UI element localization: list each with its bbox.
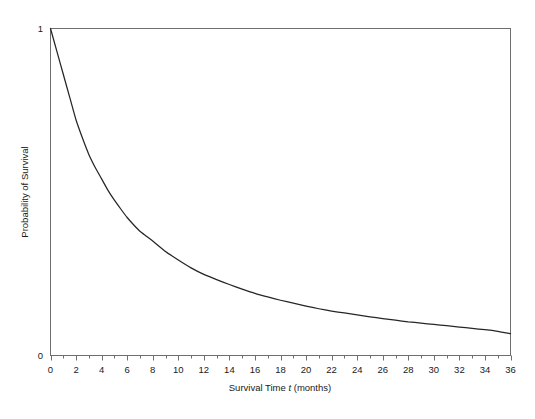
x-tick-label: 22 — [326, 364, 337, 375]
x-tick-label: 24 — [352, 364, 363, 375]
x-tick-label: 2 — [73, 364, 78, 375]
x-tick-label: 8 — [150, 364, 155, 375]
x-axis-title-post: (months) — [291, 382, 331, 393]
y-tick-label-top: 1 — [38, 23, 43, 34]
x-tick-label: 4 — [99, 364, 104, 375]
x-tick-label: 6 — [125, 364, 130, 375]
y-axis-title: Probability of Survival — [19, 146, 30, 237]
x-tick-label: 18 — [275, 364, 286, 375]
chart-background — [0, 0, 535, 419]
x-tick-label: 28 — [403, 364, 414, 375]
x-tick-label: 36 — [505, 364, 516, 375]
x-axis-title: Survival Time t (months) — [229, 382, 331, 393]
x-tick-label: 0 — [48, 364, 53, 375]
survival-curve-figure: 024681012141618202224262830323436 1 0 Pr… — [0, 0, 535, 419]
x-tick-label: 10 — [173, 364, 184, 375]
x-tick-label: 12 — [199, 364, 210, 375]
x-tick-label: 20 — [301, 364, 312, 375]
x-axis-title-pre: Survival Time — [229, 382, 289, 393]
y-tick-label-bottom: 0 — [38, 350, 43, 361]
x-tick-label: 14 — [224, 364, 235, 375]
x-tick-label: 26 — [377, 364, 388, 375]
x-tick-label: 32 — [454, 364, 465, 375]
x-tick-label: 16 — [250, 364, 261, 375]
x-tick-label: 34 — [480, 364, 491, 375]
survival-chart: 024681012141618202224262830323436 1 0 Pr… — [0, 0, 535, 419]
x-tick-label: 30 — [429, 364, 440, 375]
